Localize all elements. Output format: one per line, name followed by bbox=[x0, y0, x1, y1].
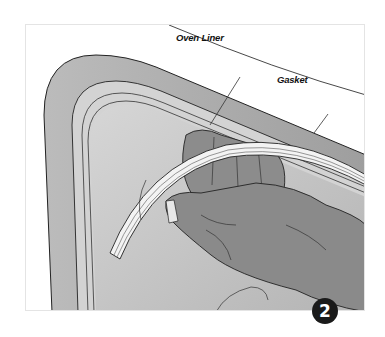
illustration-frame bbox=[25, 24, 365, 311]
gasket-label: Gasket bbox=[277, 74, 308, 85]
step-number-badge: 2 bbox=[312, 298, 338, 324]
gasket-leader-line bbox=[314, 114, 328, 133]
oven-gasket-illustration bbox=[26, 25, 365, 311]
oven-liner-label: Oven Liner bbox=[176, 32, 224, 43]
